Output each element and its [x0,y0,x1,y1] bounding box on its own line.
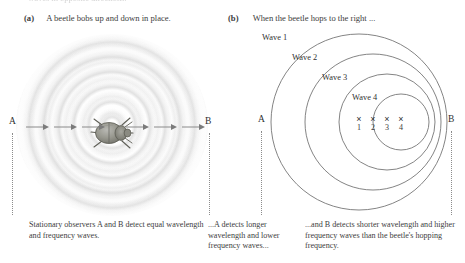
source-mark-4-number: 4 [395,123,407,132]
panel-b-observer-a: A [258,114,265,124]
panel-b-observer-b: B [448,114,454,124]
panel-a-observer-b: B [205,116,211,126]
panel-b-dotline-a [261,131,263,215]
source-mark-1-number: 1 [353,123,365,132]
source-mark-3-number: 3 [381,123,393,132]
panel-a-dotline-b [209,133,211,215]
beetle-illustration [89,112,135,154]
panel-a-caption: Stationary observers A and B detect equa… [29,220,209,241]
panel-b-caption-left: ...A detects longer wavelength and lower… [208,220,296,252]
panel-a-heading: (a) A beetle bobs up and down in place. [24,13,171,23]
wave-label-1: Wave 1 [262,33,287,42]
panel-a-label: (a) [24,13,34,23]
panel-a-dotline-a [12,133,14,215]
panel-b-label: (b) [228,13,239,23]
source-mark-2-number: 2 [367,123,379,132]
panel-a-wavefield [16,34,208,216]
panel-a-arrow-axis [20,122,206,132]
panel-a-observer-a: A [9,116,16,126]
wave-label-4: Wave 4 [352,93,377,102]
panel-a-heading-text: A beetle bobs up and down in place. [46,13,171,23]
panel-b-dotline-b [451,131,453,215]
doppler-beetle-figure: waves in opposite directions. (a) A beet… [0,0,465,263]
wave-label-2: Wave 2 [292,53,317,62]
panel-b-caption-right: ...and B detects shorter wavelength and … [305,220,457,252]
wave-label-3: Wave 3 [322,73,347,82]
clipped-top-text: waves in opposite directions. [28,0,178,5]
clipped-top-text-label: waves in opposite directions. [28,0,127,3]
